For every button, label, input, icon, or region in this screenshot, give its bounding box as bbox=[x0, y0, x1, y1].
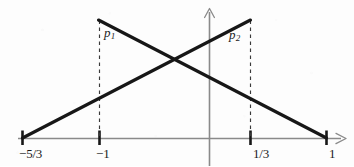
axis-group bbox=[18, 9, 346, 167]
curve-label-p1: p1 bbox=[104, 26, 115, 39]
curve-label-p1-base: p bbox=[104, 25, 111, 40]
curve-label-p2-base: p bbox=[229, 27, 236, 42]
tick-label-one-third: 1/3 bbox=[253, 147, 269, 160]
dashed-guide-group bbox=[100, 21, 251, 138]
curve-label-p2: p2 bbox=[229, 28, 240, 41]
tick-label-one: 1 bbox=[329, 147, 335, 160]
plot-figure: p1 p2 −5/3 −1 1/3 1 bbox=[0, 0, 354, 166]
tick-label-neg-five-thirds: −5/3 bbox=[19, 147, 42, 160]
series-group bbox=[23, 20, 327, 138]
curve-label-p2-subscript: 2 bbox=[236, 33, 241, 43]
series-line-p1 bbox=[99, 20, 327, 138]
plot-canvas bbox=[0, 0, 354, 166]
series-line-p2 bbox=[23, 20, 251, 138]
curve-label-p1-subscript: 1 bbox=[111, 31, 116, 41]
tick-label-neg-one: −1 bbox=[96, 147, 109, 160]
